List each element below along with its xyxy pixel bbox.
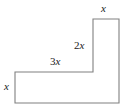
dimension-label-left-height-variable: x [4, 80, 9, 92]
dimension-label-left-height: x [4, 81, 9, 92]
dimension-label-inner-height-variable: x [80, 39, 85, 51]
dimension-label-inner-height: 2x [74, 40, 84, 51]
dimension-label-inner-width-variable: x [56, 55, 61, 67]
geometry-figure: x 2x 3x x [0, 0, 127, 111]
dimension-label-top-variable: x [101, 2, 106, 14]
l-shape-outline [0, 0, 127, 111]
dimension-label-inner-width: 3x [50, 56, 60, 67]
l-shape-polygon [15, 19, 119, 103]
dimension-label-top-width: x [101, 3, 106, 14]
